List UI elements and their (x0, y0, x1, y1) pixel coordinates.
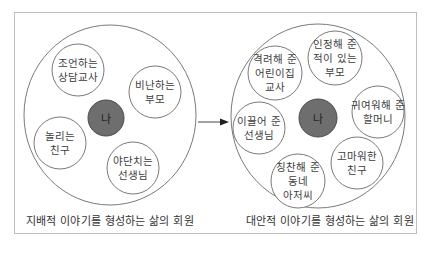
left-member-1-line-1: 조언하는 (58, 56, 98, 70)
right-caption: 대안적 이야기를 형성하는 삶의 회원 (246, 212, 414, 228)
right-member-4-line-1: 이끌어 준 (237, 114, 280, 128)
left-member-4-line-2: 선생님 (113, 168, 153, 182)
right-me-label: 나 (313, 110, 323, 126)
right-member-2-line-1: 인정해 준 (313, 37, 356, 51)
right-member-5-line-1: 칭찬해 준 (276, 160, 319, 174)
left-member-label-4: 야단치는 선생님 (113, 154, 153, 182)
left-me-label: 나 (101, 110, 111, 126)
arrow-right-icon (198, 119, 229, 126)
left-member-2-line-2: 부모 (135, 92, 175, 106)
right-member-1-line-2: 어린이집 (253, 66, 296, 80)
left-member-label-2: 비난하는 부모 (135, 78, 175, 106)
left-member-label-1: 조언하는 상담교사 (58, 56, 98, 84)
right-member-5-line-3: 아저씨 (276, 188, 319, 202)
left-caption: 지배적 이야기를 형성하는 삶의 회원 (26, 212, 194, 228)
right-member-5-line-2: 동네 (276, 174, 319, 188)
right-member-label-1: 격려해 준 어린이집 교사 (253, 52, 296, 94)
right-member-2-line-2: 적이 있는 (313, 51, 356, 65)
left-member-label-3: 놀리는 친구 (45, 129, 75, 157)
left-member-2-line-1: 비난하는 (135, 78, 175, 92)
right-member-1-line-1: 격려해 준 (253, 52, 296, 66)
left-member-3-line-2: 친구 (45, 143, 75, 157)
right-member-1-line-3: 교사 (253, 80, 296, 94)
left-member-4-line-1: 야단치는 (113, 154, 153, 168)
right-member-6-line-2: 친구 (337, 163, 377, 177)
right-member-label-3: 귀여워해 준 할머니 (351, 98, 404, 126)
left-member-3-line-1: 놀리는 (45, 129, 75, 143)
right-member-label-2: 인정해 준 적이 있는 부모 (313, 37, 356, 79)
right-member-6-line-1: 고마워한 (337, 149, 377, 163)
right-member-label-5: 칭찬해 준 동네 아저씨 (276, 160, 319, 202)
left-member-1-line-2: 상담교사 (58, 70, 98, 84)
right-member-2-line-3: 부모 (313, 65, 356, 79)
right-member-label-6: 고마워한 친구 (337, 149, 377, 177)
right-member-3-line-1: 귀여워해 준 (351, 98, 404, 112)
right-member-label-4: 이끌어 준 선생님 (237, 114, 280, 142)
right-member-4-line-2: 선생님 (237, 128, 280, 142)
right-member-3-line-2: 할머니 (351, 112, 404, 126)
